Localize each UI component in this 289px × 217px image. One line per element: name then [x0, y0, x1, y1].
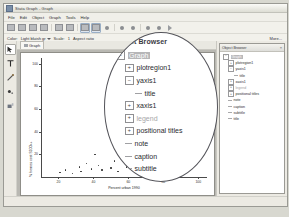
pointer-tool[interactable]: [5, 44, 16, 55]
paste-icon[interactable]: [65, 23, 75, 33]
callout-tree-node: caption: [113, 150, 213, 163]
expand-icon: +: [125, 127, 134, 136]
y-tick-label: 100: [28, 62, 38, 66]
y-tick: [39, 154, 41, 155]
tab-graph[interactable]: Graph: [20, 41, 44, 49]
pointer-icon: [7, 46, 13, 53]
new-icon[interactable]: [6, 23, 16, 33]
expand-icon[interactable]: +: [228, 91, 234, 97]
collapse-icon[interactable]: −: [223, 54, 229, 60]
screen-root: Stata Graph - Graph File Edit Object Gra…: [0, 0, 289, 217]
toolbar-separator: [140, 24, 141, 31]
menu-file[interactable]: File: [8, 15, 15, 20]
callout-tree-node-label: Graph: [128, 52, 150, 59]
object-browser-node-label: caption: [234, 105, 246, 109]
expand-icon: +: [125, 64, 134, 73]
callout-tree-node-label: title: [145, 90, 156, 97]
collapse-icon[interactable]: −: [228, 66, 234, 72]
grid-icon[interactable]: [80, 23, 90, 33]
print-icon[interactable]: [39, 23, 49, 33]
text-tool[interactable]: [5, 58, 16, 69]
x-tick-label: 40: [87, 180, 99, 184]
x-axis-title: Percent urban 1990: [41, 186, 207, 190]
y-tick-label: 40: [28, 130, 38, 134]
expand-icon[interactable]: +: [228, 85, 234, 91]
menu-tools[interactable]: Tools: [66, 15, 76, 20]
redo-icon[interactable]: [128, 23, 138, 33]
object-browser-node[interactable]: title: [221, 116, 283, 122]
graph-tab-icon: [24, 44, 28, 47]
collapse-icon: −: [125, 76, 134, 85]
x-tick-label: 20: [52, 180, 64, 184]
callout-tree-node-label: note: [135, 140, 149, 147]
marker-tool[interactable]: [5, 86, 16, 97]
object-browser-node-label: legend: [236, 86, 247, 90]
open-icon[interactable]: [17, 23, 27, 33]
callout-tree-node: +xaxis1: [113, 99, 213, 112]
tree-leaf-icon: [228, 118, 232, 119]
menubar: File Edit Object Graph Tools Help: [4, 13, 287, 22]
marker-dot-icon: [7, 88, 14, 95]
tree-leaf-icon: [125, 156, 132, 157]
callout-tree-node: subtitle: [113, 162, 213, 175]
paint-tool[interactable]: [5, 100, 16, 111]
callout-title: Object Browser: [114, 38, 167, 45]
x-tick: [58, 177, 59, 179]
toolbar-separator: [51, 24, 52, 31]
data-point[interactable]: [94, 154, 96, 156]
main-toolbar: [4, 22, 287, 34]
data-point[interactable]: [80, 171, 82, 173]
object-browser-tree[interactable]: −Graph+plotregion1−yaxis1title+xaxis1+le…: [220, 52, 284, 193]
window-title: Stata Graph - Graph: [15, 6, 53, 11]
play-icon[interactable]: [165, 23, 175, 33]
line-icon: [7, 74, 14, 81]
snap-icon[interactable]: [91, 23, 101, 33]
status-bar: [4, 196, 287, 206]
object-browser-node-label: yaxis1: [236, 67, 246, 71]
object-browser-node-label: title: [234, 117, 240, 121]
data-point[interactable]: [101, 169, 103, 171]
callout-tree-node: +positional titles: [113, 125, 213, 138]
right-dock: Object Browser × −Graph+plotregion1−yaxi…: [216, 41, 287, 196]
object-browser-header: Object Browser ×: [220, 44, 284, 52]
tree-leaf-icon: [228, 100, 232, 101]
object-browser-node-label: title: [240, 74, 246, 78]
callout-tree-node-label: yaxis1: [137, 77, 157, 84]
line-tool[interactable]: [5, 72, 16, 83]
copy-icon[interactable]: [54, 23, 64, 33]
callout-tree-node: title: [113, 175, 213, 182]
save-icon[interactable]: [28, 23, 38, 33]
menu-edit[interactable]: Edit: [20, 15, 27, 20]
tree-leaf-icon: [135, 93, 142, 94]
close-icon[interactable]: ×: [280, 46, 282, 50]
stata-icon: [6, 5, 13, 12]
object-browser-node-label: plotregion1: [236, 61, 254, 65]
tree-leaf-icon: [125, 168, 132, 169]
callout-tree-node: −Graph: [113, 49, 213, 62]
callout-tree-node: −yaxis1: [113, 74, 213, 87]
y-tick: [39, 64, 41, 65]
callout-tree-node: +plotregion1: [113, 62, 213, 75]
menu-object[interactable]: Object: [32, 15, 44, 20]
object-browser-panel: Object Browser × −Graph+plotregion1−yaxi…: [219, 43, 285, 194]
pause-icon[interactable]: [154, 23, 164, 33]
menu-help[interactable]: Help: [81, 15, 90, 20]
menu-graph[interactable]: Graph: [49, 15, 61, 20]
callout-tree-node-label: legend: [137, 115, 158, 122]
data-point[interactable]: [110, 167, 112, 169]
expand-icon[interactable]: +: [228, 60, 234, 66]
tree-leaf-icon: [228, 106, 232, 107]
expand-icon[interactable]: +: [228, 79, 234, 85]
callout-tree-node: note: [113, 137, 213, 150]
collapse-icon: −: [116, 51, 125, 60]
callout-tree-node: title: [113, 87, 213, 100]
callout-tree: −Graph+plotregion1−yaxis1title+xaxis1+le…: [113, 49, 213, 182]
y-axis-title: % homes cost $100k+: [29, 142, 33, 177]
record-icon[interactable]: [143, 23, 153, 33]
undo-icon[interactable]: [117, 23, 127, 33]
add-text-icon[interactable]: [102, 23, 112, 33]
text-t-icon: [7, 60, 14, 67]
data-point[interactable]: [79, 166, 81, 168]
toolbar-separator: [77, 24, 78, 31]
y-tick-label: 20: [28, 152, 38, 156]
